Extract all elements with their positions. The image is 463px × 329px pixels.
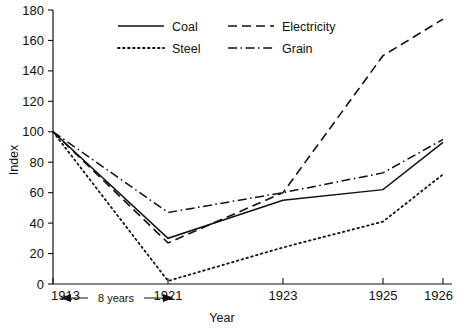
y-tick-label: 60 — [30, 185, 44, 200]
series-line-grain — [53, 132, 443, 213]
y-tick-label: 160 — [22, 33, 44, 48]
y-tick-label: 180 — [22, 3, 44, 18]
x-axis-title: Year — [209, 311, 234, 325]
legend-label-coal: Coal — [172, 20, 198, 34]
y-tick-label: 0 — [37, 277, 44, 292]
y-tick-label: 100 — [22, 124, 44, 139]
x-tick-label: 1921 — [154, 288, 183, 303]
series-line-coal — [53, 132, 443, 239]
y-tick-label: 80 — [30, 155, 44, 170]
chart-canvas: 020406080100120140160180 191319211923192… — [0, 0, 463, 329]
y-tick-label: 120 — [22, 94, 44, 109]
y-tick-label: 140 — [22, 63, 44, 78]
y-axis-title: Index — [7, 144, 21, 175]
legend: CoalElectricitySteelGrain — [118, 20, 336, 56]
y-tick-label: 20 — [30, 246, 44, 261]
x-tick-label: 1913 — [51, 288, 80, 303]
series-group — [53, 19, 443, 281]
legend-label-steel: Steel — [172, 42, 201, 56]
x-tick-label: 1923 — [269, 288, 298, 303]
y-axis-ticks: 020406080100120140160180 — [22, 3, 53, 292]
x-tick-label: 1925 — [369, 288, 398, 303]
legend-label-grain: Grain — [282, 42, 313, 56]
annotation-label: 8 years — [98, 292, 135, 304]
series-line-electricity — [53, 19, 443, 243]
legend-label-electricity: Electricity — [282, 20, 336, 34]
line-chart: 020406080100120140160180 191319211923192… — [0, 0, 463, 329]
x-tick-label: 1926 — [424, 288, 453, 303]
y-tick-label: 40 — [30, 216, 44, 231]
axis-group — [53, 10, 452, 284]
series-line-steel — [53, 132, 443, 281]
